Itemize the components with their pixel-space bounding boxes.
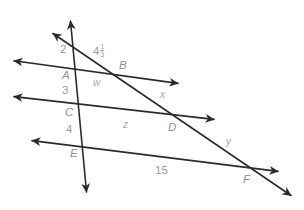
- segment-label-2: 2: [60, 44, 66, 56]
- fraction-stack: 1 3: [100, 44, 104, 59]
- point-label-F: F: [243, 174, 250, 186]
- geometry-figure: 2 4 1 3 A 3 C 4 E B w x z D y 15 F: [0, 0, 304, 210]
- variable-label-w: w: [93, 78, 100, 88]
- fraction-numerator: 1: [100, 44, 104, 51]
- variable-label-x: x: [160, 90, 165, 100]
- transversal-diagonal: [53, 34, 291, 196]
- segment-label-4: 4: [66, 124, 72, 136]
- point-label-A: A: [62, 70, 70, 82]
- point-label-C: C: [65, 107, 73, 119]
- segment-label-4-and-one-third: 4 1 3: [93, 44, 104, 59]
- fraction-whole: 4: [93, 46, 99, 58]
- segment-label-15: 15: [155, 165, 168, 177]
- parallel-line-2: [14, 97, 214, 120]
- figure-canvas: [0, 0, 304, 210]
- variable-label-z: z: [123, 120, 128, 130]
- variable-label-y: y: [226, 137, 231, 147]
- point-label-B: B: [119, 60, 127, 72]
- point-label-E: E: [70, 148, 78, 160]
- point-label-D: D: [168, 122, 176, 134]
- segment-label-3: 3: [62, 85, 68, 97]
- fraction-denominator: 3: [100, 50, 104, 58]
